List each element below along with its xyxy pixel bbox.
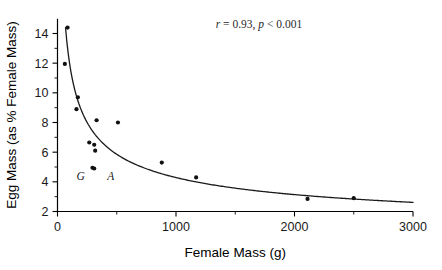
regression-curve xyxy=(66,28,413,203)
y-tick-label-14: 14 xyxy=(35,27,49,41)
y-tick-label-12: 12 xyxy=(35,57,49,71)
scatter-plot: 0100020003000 2468101214 GA r = 0.93, p … xyxy=(0,0,442,270)
y-tick-label-4: 4 xyxy=(42,175,49,189)
x-tick-label-2000: 2000 xyxy=(281,220,309,234)
data-point-7 xyxy=(92,143,96,147)
data-point-0 xyxy=(65,25,69,29)
data-point-5 xyxy=(116,120,120,124)
point-label-a: A xyxy=(106,170,115,182)
x-tick-label-0: 0 xyxy=(54,220,61,234)
axis-lines xyxy=(58,19,414,212)
point-label-g: G xyxy=(76,170,85,182)
y-tick-label-10: 10 xyxy=(35,86,49,100)
data-point-8 xyxy=(93,149,97,153)
figure-container: 0100020003000 2468101214 GA r = 0.93, p … xyxy=(0,0,442,270)
data-point-1 xyxy=(63,62,67,66)
data-point-11 xyxy=(160,160,164,164)
y-axis-major-ticks xyxy=(53,34,58,212)
data-point-2 xyxy=(76,95,80,99)
data-point-14 xyxy=(352,196,356,200)
data-point-12 xyxy=(194,175,198,179)
y-axis-title: Egg Mass (as % Female Mass) xyxy=(4,21,19,209)
y-tick-label-2: 2 xyxy=(42,205,49,219)
x-axis-title: Female Mass (g) xyxy=(185,245,286,260)
data-point-10 xyxy=(92,166,96,170)
plot-axes xyxy=(53,19,414,217)
data-point-6 xyxy=(87,140,91,144)
data-point-annotations: GA xyxy=(76,170,115,182)
y-tick-label-6: 6 xyxy=(42,146,49,160)
fit-curve-group xyxy=(66,28,413,203)
data-point-4 xyxy=(95,118,99,122)
x-tick-label-3000: 3000 xyxy=(399,220,427,234)
y-axis-tick-labels: 2468101214 xyxy=(35,27,49,219)
x-axis-tick-labels: 0100020003000 xyxy=(54,220,427,234)
data-point-3 xyxy=(74,107,78,111)
x-tick-label-1000: 1000 xyxy=(162,220,190,234)
correlation-statistics-annotation: r = 0.93, p < 0.001 xyxy=(216,18,303,31)
data-point-13 xyxy=(305,197,309,201)
y-tick-label-8: 8 xyxy=(42,116,49,130)
